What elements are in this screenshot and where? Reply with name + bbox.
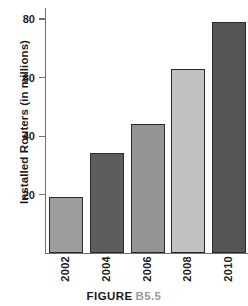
plot-area: 20406080 bbox=[45, 8, 248, 254]
x-tick-label: 2004 bbox=[100, 256, 112, 282]
bar bbox=[171, 69, 205, 254]
x-tick-label: 2002 bbox=[59, 256, 71, 282]
x-tick-label: 2006 bbox=[141, 256, 153, 282]
y-tick-label: 40 bbox=[23, 130, 35, 142]
figure-caption: FIGUREB5.5 bbox=[0, 290, 248, 302]
bar bbox=[90, 153, 124, 253]
figure-b5-5: Installed Routers (in millions) 20406080… bbox=[0, 0, 248, 306]
bar bbox=[49, 197, 83, 253]
x-tick-label: 2008 bbox=[181, 256, 193, 282]
y-tick: 60 bbox=[39, 77, 45, 78]
bar bbox=[212, 22, 246, 253]
x-tick-label: 2010 bbox=[222, 256, 234, 282]
bar bbox=[131, 124, 165, 253]
y-tick: 20 bbox=[39, 194, 45, 195]
y-tick-label: 60 bbox=[23, 72, 35, 84]
y-tick-label: 20 bbox=[23, 189, 35, 201]
y-tick: 40 bbox=[39, 136, 45, 137]
y-tick-label: 80 bbox=[23, 13, 35, 25]
caption-number: B5.5 bbox=[135, 290, 161, 302]
caption-label: FIGURE bbox=[87, 290, 133, 302]
y-tick: 80 bbox=[39, 18, 45, 19]
bar-group bbox=[46, 8, 248, 253]
